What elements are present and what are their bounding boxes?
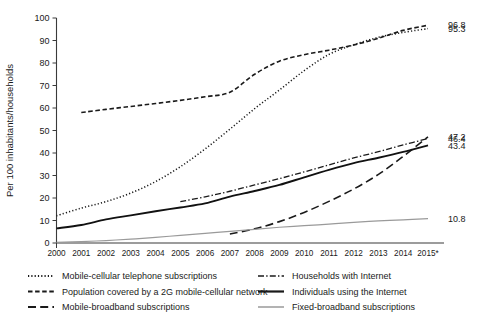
x-tick-label: 2007 [221,249,240,258]
line-chart: 0102030405060708090100 20002001200220032… [0,0,498,317]
x-tick-label: 2005 [171,249,190,258]
y-tick-label: 90 [39,36,49,46]
x-tick-label: 2015* [417,249,439,258]
x-tick-label: 2010 [295,249,314,258]
y-tick-label: 20 [39,193,49,203]
series-line [180,139,428,202]
legend-label: Individuals using the Internet [292,287,407,297]
x-tick-label: 2011 [320,249,338,258]
x-tick-label: 2012 [345,249,364,258]
y-tick-label: 40 [39,148,49,158]
legend-label: Households with Internet [292,271,392,281]
chart-container: 0102030405060708090100 20002001200220032… [0,0,498,317]
series-end-label: 10.8 [448,214,466,224]
y-tick-label: 70 [39,81,49,91]
y-axis-title-text: Per 100 inhabitants/households [4,64,15,197]
y-tick-label: 10 [39,216,49,226]
x-tick-label: 2013 [369,249,388,258]
series-end-label: 96.8 [448,20,466,30]
x-tick-label: 2000 [47,249,66,258]
y-tick-label: 50 [39,126,49,136]
x-tick-label: 2008 [246,249,265,258]
x-tick-label: 2009 [270,249,289,258]
end-value-labels: 95.396.847.246.443.410.8 [448,20,466,224]
series-lines [57,25,429,242]
y-tick-label: 80 [39,58,49,68]
x-tick-label: 2006 [196,249,215,258]
y-tick-label: 60 [39,103,49,113]
legend-label: Mobile-broadband subscriptions [62,302,190,312]
y-tick-label: 0 [44,238,49,248]
y-axis-ticks: 0102030405060708090100 [34,13,56,248]
x-tick-label: 2004 [146,249,165,258]
y-tick-label: 30 [39,171,49,181]
series-end-label: 43.4 [448,141,466,151]
axis-lines [57,18,445,243]
legend-label: Mobile-cellular telephone subscriptions [62,271,218,281]
series-line [57,145,429,228]
x-tick-label: 2001 [72,249,91,258]
legend-label: Fixed-broadband subscriptions [292,302,416,312]
x-tick-label: 2002 [97,249,116,258]
y-tick-label: 100 [34,13,49,23]
series-line [230,137,428,234]
series-line [81,25,428,112]
series-line [57,219,429,243]
axes [57,18,445,243]
legend-label: Population covered by a 2G mobile-cellul… [62,287,268,297]
legend: Mobile-cellular telephone subscriptionsP… [28,271,416,312]
x-tick-label: 2014 [394,249,413,258]
x-tick-label: 2003 [122,249,141,258]
y-axis-title: Per 100 inhabitants/households [4,64,15,197]
